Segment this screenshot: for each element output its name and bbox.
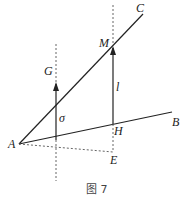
label-b: B xyxy=(172,115,180,129)
label-l: l xyxy=(116,80,120,94)
line-ae-dashed xyxy=(19,144,113,152)
label-h: H xyxy=(113,124,124,138)
label-e: E xyxy=(109,153,118,167)
arrow-up-icon xyxy=(53,82,59,91)
label-c: C xyxy=(136,1,145,15)
geometry-diagram: A B C M G H E l σ 图 7 xyxy=(0,0,181,199)
label-g: G xyxy=(44,64,53,78)
line-ac xyxy=(19,14,143,144)
figure-caption: 图 7 xyxy=(86,183,108,196)
label-sigma: σ xyxy=(59,111,66,125)
line-ab xyxy=(19,112,172,144)
label-a: A xyxy=(7,137,16,151)
label-m: M xyxy=(98,36,110,50)
